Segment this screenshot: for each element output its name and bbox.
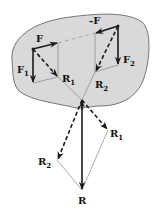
label-R: R (78, 195, 87, 206)
force-diagram: F -F F1 F2 R1 R2 R1 R2 R (0, 0, 157, 216)
label-R1-translated: R1 (110, 128, 123, 142)
vector-R2-translated (58, 100, 82, 159)
label-F: F (36, 33, 43, 44)
label-negF: -F (89, 15, 100, 26)
label-R2-translated: R2 (38, 156, 51, 170)
